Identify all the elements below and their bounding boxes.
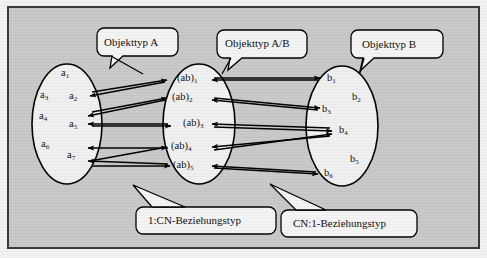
callout-objekttyp-ab-label: Objekttyp A/B [225, 38, 289, 49]
node-label-a2: a2 [69, 91, 77, 102]
node-label-b4: b4 [339, 125, 348, 136]
arrow-ab1-to-a2 [90, 82, 165, 96]
node-label-b6: b6 [324, 168, 333, 179]
arrow-a7-to-ab4 [90, 147, 167, 161]
node-label-ab4: (ab)4 [171, 141, 191, 152]
node-label-ab1: (ab)1 [177, 73, 197, 84]
callout-objekttyp-b-shape [351, 30, 443, 73]
node-label-a7: a7 [67, 150, 75, 161]
arrow-a2-to-ab1 [92, 80, 167, 92]
node-label-a1: a1 [61, 68, 69, 79]
callout-beziehung-cn1-label: CN:1-Beziehungstyp [293, 218, 386, 229]
node-label-a3: a3 [40, 90, 48, 101]
callout-beziehung-1cn-label: 1:CN-Beziehungstyp [148, 215, 241, 226]
node-label-b3: b3 [322, 104, 331, 115]
node-label-a4: a4 [39, 111, 47, 122]
arrow-a5-to-ab2 [92, 98, 167, 112]
figure-canvas: a1 a3 a2 a4 a5 a6 a7 (ab)1 (ab)2 (ab)3 (… [0, 0, 487, 258]
callout-objekttyp-a-label: Objekttyp A [104, 37, 158, 48]
callout-beziehung-1cn-shape [133, 185, 276, 234]
node-label-b2: b2 [352, 92, 361, 103]
node-label-a5: a5 [69, 119, 77, 130]
arrow-ab5-to-a7 [88, 161, 168, 164]
callout-beziehung-cn1-shape [270, 184, 417, 237]
node-label-a6: a6 [41, 139, 49, 150]
node-label-b5: b5 [350, 154, 359, 165]
node-label-ab5: (ab)5 [173, 160, 193, 171]
callout-objekttyp-b-label: Objekttyp B [362, 39, 416, 50]
node-label-ab3: (ab)3 [183, 118, 203, 129]
callout-objekttyp-a-shape [97, 28, 178, 74]
node-label-ab2: (ab)2 [172, 92, 192, 103]
node-label-b1: b1 [327, 73, 336, 84]
